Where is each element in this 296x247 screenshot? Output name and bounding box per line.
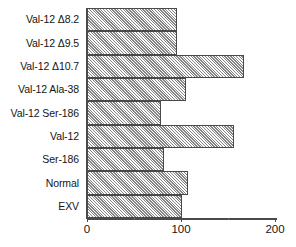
- bar-row: [87, 55, 276, 78]
- x-axis-tick-label: 100: [171, 224, 190, 236]
- bar-row: [87, 171, 276, 194]
- bar: [87, 171, 188, 194]
- category-label: EXV: [0, 195, 83, 218]
- x-axis-minor-tick: [228, 218, 229, 220]
- bar: [87, 8, 177, 31]
- bar-row: [87, 8, 276, 31]
- bar-row: [87, 78, 276, 101]
- bar: [87, 31, 177, 54]
- bar-series: [87, 8, 276, 218]
- y-axis-line: [86, 8, 87, 219]
- bar-chart: Val-12 Δ8.2 Val-12 Δ9.5 Val-12 Δ10.7 Val…: [0, 0, 296, 247]
- category-label: Val-12 Δ8.2: [0, 8, 83, 31]
- bar: [87, 55, 244, 78]
- bar: [87, 125, 234, 148]
- bar: [87, 78, 186, 101]
- x-axis-line: [87, 218, 277, 220]
- bar-row: [87, 101, 276, 124]
- x-axis-tick: [87, 218, 88, 222]
- bar-row: [87, 125, 276, 148]
- category-label: Val-12 Δ9.5: [0, 31, 83, 54]
- x-axis-tick-label: 200: [265, 224, 284, 236]
- category-label: Normal: [0, 171, 83, 194]
- bar-row: [87, 148, 276, 171]
- x-axis-tick: [275, 218, 276, 222]
- bar: [87, 195, 182, 218]
- x-axis-minor-tick: [134, 218, 135, 220]
- bar: [87, 148, 164, 171]
- category-label: Val-12 Ala-38: [0, 78, 83, 101]
- category-label: Val-12: [0, 125, 83, 148]
- x-axis-tick-label: 0: [84, 224, 90, 236]
- category-label: Val-12 Ser-186: [0, 101, 83, 124]
- category-axis-labels: Val-12 Δ8.2 Val-12 Δ9.5 Val-12 Δ10.7 Val…: [0, 8, 83, 218]
- bar-row: [87, 31, 276, 54]
- bar-row: [87, 195, 276, 218]
- category-label: Ser-186: [0, 148, 83, 171]
- plot-area: [87, 8, 276, 218]
- bar: [87, 101, 161, 124]
- x-axis-tick: [181, 218, 182, 222]
- category-label: Val-12 Δ10.7: [0, 55, 83, 78]
